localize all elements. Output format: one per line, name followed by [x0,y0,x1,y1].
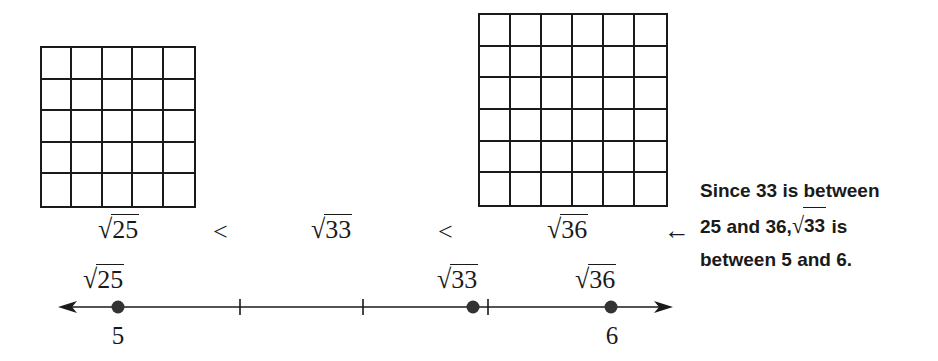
tick-label-5: 5 [112,322,125,350]
point-5-dot [112,301,125,314]
number-line [0,0,938,361]
point-6-dot [605,301,618,314]
point-sqrt-33-dot [467,301,480,314]
tick-label-6: 6 [606,322,619,350]
